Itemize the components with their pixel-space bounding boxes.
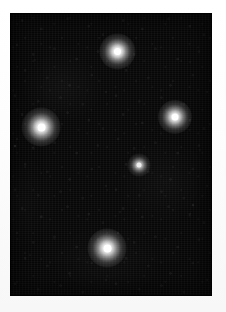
star-right-core bbox=[172, 114, 179, 121]
star-center-core bbox=[137, 163, 142, 168]
night-sky-image bbox=[10, 13, 212, 296]
star-bottom-glow bbox=[87, 228, 127, 268]
sky-edge-rim bbox=[10, 13, 212, 296]
star-top-glow bbox=[99, 33, 135, 69]
star-left-core bbox=[37, 123, 45, 131]
faint-star-left-edge bbox=[14, 145, 17, 148]
film-grain-layer-micro bbox=[10, 13, 212, 296]
faint-star-upper-left bbox=[34, 59, 36, 61]
faint-star-lower-left bbox=[29, 254, 31, 256]
faint-star-upper-right bbox=[189, 61, 191, 63]
star-center bbox=[133, 159, 145, 171]
sky-nebulosity-mottle bbox=[10, 13, 212, 296]
star-left bbox=[31, 117, 52, 138]
photograph-frame: Dark astronomical night-sky photograph s… bbox=[0, 0, 226, 312]
sky-vignette bbox=[10, 13, 212, 296]
faint-star-right-lower bbox=[192, 204, 195, 207]
star-center-glow bbox=[128, 154, 151, 177]
faint-star-right-mid bbox=[199, 149, 201, 151]
film-grain-layer-speckle bbox=[10, 13, 212, 296]
star-top-core bbox=[114, 48, 121, 55]
faint-star-mid-lower bbox=[119, 211, 121, 213]
star-top bbox=[108, 42, 127, 61]
star-left-glow bbox=[21, 107, 61, 147]
star-bottom bbox=[97, 238, 118, 259]
star-right bbox=[166, 108, 184, 126]
film-grain-layer-fine bbox=[10, 13, 212, 296]
star-right-glow bbox=[158, 100, 192, 134]
star-bottom-core bbox=[103, 244, 111, 252]
